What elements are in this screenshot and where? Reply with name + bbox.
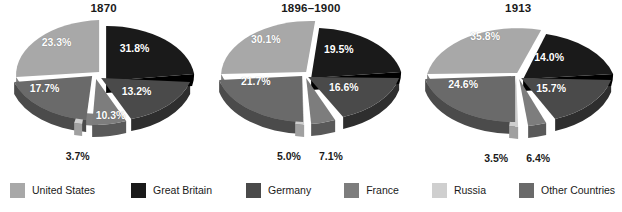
legend-label-great-britain: Great Britain: [153, 184, 212, 196]
slice-label-germany: 16.6%: [329, 81, 359, 93]
slice-label-great-britain: 19.5%: [324, 43, 354, 55]
slice-label-russia: 5.0%: [277, 150, 301, 162]
slice-label-great-britain: 14.0%: [534, 51, 564, 63]
legend-label-russia: Russia: [454, 184, 486, 196]
legend-item-germany[interactable]: Germany: [246, 183, 311, 198]
slice-label-russia: 3.7%: [66, 150, 90, 162]
slice-label-united-states: 35.8%: [470, 30, 500, 42]
pie-chart-figure: 1870: [0, 0, 622, 212]
slice-label-other-countries: 21.7%: [241, 75, 271, 87]
legend-swatch-france: [344, 183, 359, 198]
pie-chart-1896-1900: 1896–1900 19.5% 16.6%: [207, 0, 414, 172]
slice-label-united-states: 23.3%: [42, 36, 72, 48]
legend-item-other-countries[interactable]: Other Countries: [519, 183, 615, 198]
slice-label-france: 10.3%: [96, 109, 126, 121]
slice-label-united-states: 30.1%: [251, 33, 281, 45]
chart-title: 1896–1900: [207, 2, 414, 14]
legend-swatch-germany: [246, 183, 261, 198]
legend-item-france[interactable]: France: [344, 183, 399, 198]
slice-label-other-countries: 17.7%: [30, 82, 60, 94]
legend-label-france: France: [366, 184, 399, 196]
slice-side-russia: [74, 123, 82, 136]
pie-graphic-1896-1900: 19.5% 16.6% 7.1% 5.0% 30.1% 21.7%: [207, 16, 414, 146]
slice-label-russia: 3.5%: [484, 152, 508, 164]
charts-row: 1870: [0, 0, 622, 172]
legend-swatch-great-britain: [131, 183, 146, 198]
chart-title: 1913: [415, 2, 622, 14]
slice-label-germany: 15.7%: [536, 82, 566, 94]
slice-side-russia: [509, 126, 518, 139]
chart-legend: United States Great Britain Germany Fran…: [0, 178, 622, 202]
legend-swatch-russia: [432, 183, 447, 198]
pie-chart-1913: 1913 14.0% 15.7%: [415, 0, 622, 172]
legend-label-other-countries: Other Countries: [541, 184, 615, 196]
pie-chart-1870: 1870: [0, 0, 207, 172]
legend-item-united-states[interactable]: United States: [10, 183, 95, 198]
slice-united-states[interactable]: [221, 21, 315, 74]
legend-swatch-other-countries: [519, 183, 534, 198]
pie-graphic-1870: 31.8% 13.2% 10.3% 3.7% 23.3% 17.7%: [0, 16, 207, 146]
slice-side-russia: [295, 124, 304, 137]
chart-title: 1870: [0, 2, 207, 14]
pie-graphic-1913: 14.0% 15.7% 6.4% 3.5% 35.8% 24.6%: [415, 16, 622, 146]
slice-label-france: 7.1%: [319, 150, 343, 162]
legend-item-russia[interactable]: Russia: [432, 183, 486, 198]
slice-united-states[interactable]: [16, 20, 99, 77]
slice-label-other-countries: 24.6%: [448, 78, 478, 90]
slice-label-great-britain: 31.8%: [120, 42, 150, 54]
slice-label-germany: 13.2%: [122, 85, 152, 97]
legend-label-united-states: United States: [32, 184, 95, 196]
legend-swatch-united-states: [10, 183, 25, 198]
slice-label-france: 6.4%: [526, 152, 550, 164]
legend-item-great-britain[interactable]: Great Britain: [131, 183, 212, 198]
legend-label-germany: Germany: [268, 184, 311, 196]
